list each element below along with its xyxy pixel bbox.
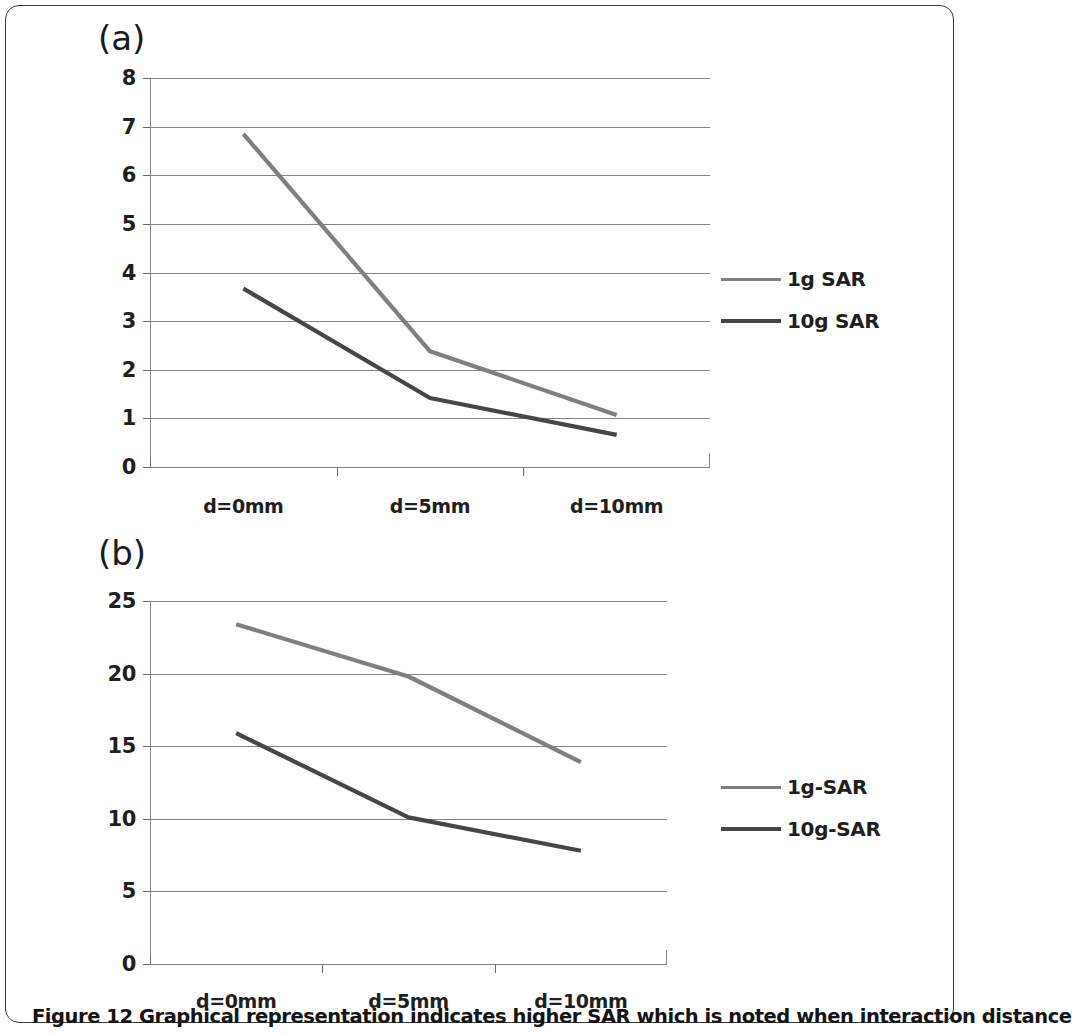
legend-label: 1g SAR <box>787 267 866 291</box>
series-line <box>236 624 581 762</box>
legend-label: 1g-SAR <box>787 775 867 799</box>
legend-item: 10g SAR <box>721 300 879 342</box>
caption-figure-number: Figure 12 <box>32 1005 133 1028</box>
figure-frame: (a) (b) 012345678 d=0mmd=5mmd=10mm 1g SA… <box>5 5 954 1023</box>
legend-swatch <box>721 827 781 831</box>
chart-panel-b: 0510152025 d=0mmd=5mmd=10mm 1g-SAR10g-SA… <box>6 521 955 1011</box>
legend-label: 10g-SAR <box>787 817 881 841</box>
series-line <box>243 289 616 435</box>
chart-panel-a: 012345678 d=0mmd=5mmd=10mm 1g SAR10g SAR <box>6 6 955 526</box>
figure-caption: Figure 12 Graphical representation indic… <box>32 1006 947 1028</box>
series-line <box>243 134 616 415</box>
legend-a: 1g SAR10g SAR <box>721 258 879 342</box>
legend-b: 1g-SAR10g-SAR <box>721 766 881 850</box>
legend-swatch <box>721 278 781 281</box>
caption-body: Graphical representation indicates highe… <box>133 1005 1072 1028</box>
legend-swatch <box>721 786 781 789</box>
legend-item: 1g-SAR <box>721 766 881 808</box>
legend-item: 1g SAR <box>721 258 879 300</box>
legend-item: 10g-SAR <box>721 808 881 850</box>
legend-swatch <box>721 319 781 323</box>
series-line <box>236 733 581 851</box>
legend-label: 10g SAR <box>787 309 879 333</box>
